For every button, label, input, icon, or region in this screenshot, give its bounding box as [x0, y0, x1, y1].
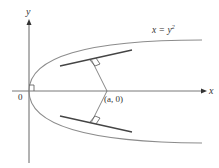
x-axis-arrow-icon	[201, 89, 207, 94]
origin-label: 0	[18, 92, 23, 102]
x-axis	[12, 89, 207, 94]
y-axis-arrow-icon	[27, 19, 32, 25]
parabola-curve	[29, 40, 202, 143]
parabola-diagram: y x 0 (a, 0) x = y2	[0, 0, 219, 168]
point-label: (a, 0)	[104, 94, 123, 104]
curve-equation-label: x = y2	[151, 23, 176, 35]
y-axis-label: y	[25, 6, 31, 17]
x-axis-label: x	[208, 85, 214, 96]
